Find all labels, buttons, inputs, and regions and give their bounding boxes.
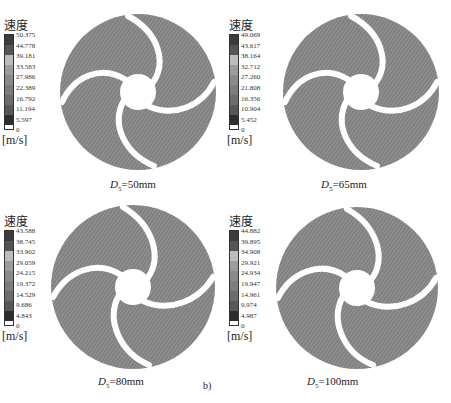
legend-value: 29.921 [241, 258, 260, 269]
legend-value: 11.194 [16, 104, 35, 115]
legend-value: 49.069 [241, 30, 260, 41]
legend-value: 33.902 [16, 247, 35, 258]
figure-sublabel: b) [203, 380, 211, 391]
legend-colorbar [229, 34, 239, 130]
panel-d5-100: 速度 44.882 39.895 34.908 29.921 24.934 19… [225, 200, 450, 400]
panel-caption: D5=80mm [98, 375, 144, 390]
legend-value: 19.947 [241, 279, 260, 290]
legend-value: 38.164 [241, 51, 260, 62]
legend-value: 39.895 [241, 237, 260, 248]
legend-value: 24.215 [16, 268, 35, 279]
impeller-velocity-plot [273, 204, 441, 372]
caption-variable: D [307, 375, 315, 387]
legend-value: 38.745 [16, 237, 35, 248]
impeller-velocity-plot [58, 12, 218, 172]
legend-value: 44.882 [241, 226, 260, 237]
legend-values: 44.882 39.895 34.908 29.921 24.934 19.94… [241, 226, 260, 332]
legend-value: 19.372 [16, 279, 35, 290]
panel-d5-65: 速度 49.069 43.617 38.164 32.712 27.260 21… [225, 0, 450, 200]
legend-value: 16.792 [16, 94, 35, 105]
impeller-velocity-plot [281, 12, 441, 172]
legend-unit: [m/s] [2, 329, 27, 344]
legend-value: 14.529 [16, 290, 35, 301]
legend-value: 21.808 [241, 83, 260, 94]
legend-value: 32.712 [241, 62, 260, 73]
caption-value: =100mm [318, 375, 358, 387]
legend-colorbar [229, 230, 239, 326]
legend-value: 27.986 [16, 72, 35, 83]
legend-value: 34.908 [241, 247, 260, 258]
legend-unit: [m/s] [227, 133, 252, 148]
panel-caption: D5=65mm [321, 178, 367, 193]
legend-value: 9.686 [16, 300, 35, 311]
legend-value: 44.778 [16, 41, 35, 52]
legend-value: 22.389 [16, 83, 35, 94]
legend-value: 27.260 [241, 72, 260, 83]
legend-value: 5.452 [241, 115, 260, 126]
caption-value: =80mm [109, 375, 143, 387]
caption-variable: D [110, 178, 118, 190]
caption-value: =50mm [121, 178, 155, 190]
panel-caption: D5=100mm [307, 375, 358, 390]
panel-d5-50: 速度 50.375 44.778 39.181 33.583 27.986 22… [0, 0, 225, 200]
legend-value: 9.974 [241, 300, 260, 311]
legend-value: 24.934 [241, 268, 260, 279]
legend-unit: [m/s] [2, 133, 27, 148]
legend-value: 39.181 [16, 51, 35, 62]
legend-value: 10.904 [241, 104, 260, 115]
legend-value: 16.356 [241, 94, 260, 105]
legend-value: 4.987 [241, 311, 260, 322]
panel-caption: D5=50mm [110, 178, 156, 193]
caption-variable: D [98, 375, 106, 387]
legend-colorbar [4, 230, 14, 326]
legend-values: 49.069 43.617 38.164 32.712 27.260 21.80… [241, 30, 260, 136]
legend-value: 14.961 [241, 290, 260, 301]
legend-unit: [m/s] [227, 329, 252, 344]
legend-value: 43.588 [16, 226, 35, 237]
impeller-velocity-plot [48, 202, 218, 372]
legend-value: 5.597 [16, 115, 35, 126]
caption-variable: D [321, 178, 329, 190]
legend-values: 43.588 38.745 33.902 29.059 24.215 19.37… [16, 226, 35, 332]
legend-value: 33.583 [16, 62, 35, 73]
legend-value: 4.843 [16, 311, 35, 322]
legend-colorbar [4, 34, 14, 130]
legend-value: 50.375 [16, 30, 35, 41]
caption-value: =65mm [332, 178, 366, 190]
legend-value: 43.617 [241, 41, 260, 52]
legend-value: 29.059 [16, 258, 35, 269]
legend-values: 50.375 44.778 39.181 33.583 27.986 22.38… [16, 30, 35, 136]
panel-d5-80: 速度 43.588 38.745 33.902 29.059 24.215 19… [0, 200, 225, 400]
